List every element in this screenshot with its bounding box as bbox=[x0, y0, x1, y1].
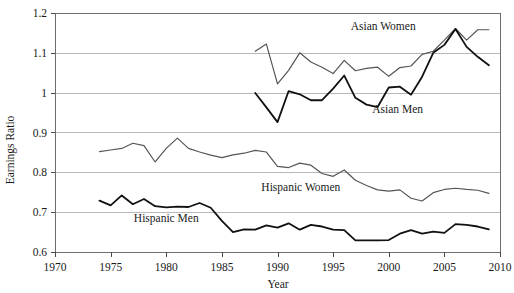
y-tick-label-1.1: 1.1 bbox=[33, 47, 48, 59]
data-series bbox=[100, 29, 489, 241]
series-line-asian-women bbox=[255, 29, 489, 84]
series-label-hispanic-men: Hispanic Men bbox=[134, 212, 199, 225]
x-tick-label-1995: 1995 bbox=[322, 261, 345, 273]
y-tick-label-1: 1 bbox=[41, 87, 47, 99]
x-tick-label-2005: 2005 bbox=[433, 261, 456, 273]
x-tick-label-1985: 1985 bbox=[210, 261, 233, 273]
y-tick-label-0.7: 0.7 bbox=[33, 206, 48, 218]
y-tick-label-0.9: 0.9 bbox=[33, 127, 48, 139]
y-tick-label-0.8: 0.8 bbox=[33, 166, 48, 178]
x-tick-label-1980: 1980 bbox=[155, 261, 178, 273]
series-label-asian-men: Asian Men bbox=[372, 103, 423, 115]
x-tick-label-1990: 1990 bbox=[266, 261, 289, 273]
series-inline-labels: Asian WomenAsian MenHispanic WomenHispan… bbox=[134, 20, 423, 225]
x-tick-label-2000: 2000 bbox=[377, 261, 400, 273]
y-axis-title: Earnings Ratio bbox=[4, 115, 17, 184]
y-tick-label-1.2: 1.2 bbox=[33, 7, 48, 19]
series-label-hispanic-women: Hispanic Women bbox=[261, 181, 340, 194]
x-tick-label-1975: 1975 bbox=[99, 261, 122, 273]
chart-canvas: 0.60.70.80.911.11.2 19701975198019851990… bbox=[0, 0, 514, 293]
series-label-asian-women: Asian Women bbox=[351, 20, 416, 32]
x-tick-label-2010: 2010 bbox=[489, 261, 512, 273]
y-tick-label-0.6: 0.6 bbox=[33, 246, 48, 258]
x-tick-label-1970: 1970 bbox=[44, 261, 67, 273]
y-axis-tick-labels: 0.60.70.80.911.11.2 bbox=[33, 7, 48, 258]
y-axis-ticks bbox=[51, 14, 55, 253]
earnings-ratio-line-chart: 0.60.70.80.911.11.2 19701975198019851990… bbox=[0, 0, 514, 293]
x-axis-title: Year bbox=[267, 278, 288, 290]
x-axis-tick-labels: 197019751980198519901995200020052010 bbox=[44, 261, 512, 273]
